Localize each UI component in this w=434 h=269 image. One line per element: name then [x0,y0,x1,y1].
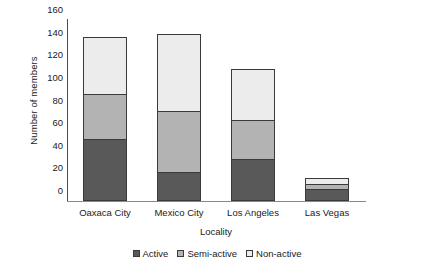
y-tick-label: 160 [39,4,63,15]
bar-segment-active[interactable] [83,139,127,201]
bar-segment-semi-active[interactable] [83,94,127,139]
bar-segment-non-active[interactable] [157,34,201,111]
stacked-bar-chart: Number of members 020406080100120140160 … [0,0,434,269]
bar-oaxaca-city[interactable]: Oaxaca City [83,37,127,201]
y-tick-label: 40 [39,139,63,150]
y-tick-label: 140 [39,26,63,37]
bar-segment-active[interactable] [157,172,201,201]
y-axis-line [67,19,68,202]
legend-swatch-icon [133,250,140,257]
bar-los-angeles[interactable]: Los Angeles [231,69,275,201]
bar-las-vegas[interactable]: Las Vegas [305,178,349,201]
bar-segment-non-active[interactable] [83,37,127,94]
legend-swatch-icon [177,250,184,257]
y-tick-label: 60 [39,117,63,128]
bar-mexico-city[interactable]: Mexico City [157,34,201,201]
chart-legend: ActiveSemi-activeNon-active [0,248,434,259]
y-axis-title: Number of members [28,21,39,181]
y-tick-label: 0 [39,185,63,196]
plot-area: 020406080100120140160 Oaxaca CityMexico … [68,20,364,201]
y-tick-label: 100 [39,71,63,82]
legend-swatch-icon [246,250,253,257]
bar-segment-non-active[interactable] [231,69,275,120]
bar-segment-active[interactable] [231,159,275,201]
legend-item-active[interactable]: Active [133,248,169,259]
legend-item-semi-active[interactable]: Semi-active [177,248,237,259]
y-tick-label: 20 [39,162,63,173]
legend-item-non-active[interactable]: Non-active [246,248,301,259]
x-tick-label: Oaxaca City [79,207,131,218]
y-tick-label: 80 [39,94,63,105]
x-tick-label: Los Angeles [227,207,279,218]
x-axis-title: Locality [68,226,364,237]
bar-segment-semi-active[interactable] [157,111,201,172]
y-tick-label: 120 [39,49,63,60]
x-tick-label: Las Vegas [305,207,349,218]
x-axis-line [67,201,366,202]
legend-label: Semi-active [187,248,237,259]
bar-segment-active[interactable] [305,189,349,201]
bar-segment-semi-active[interactable] [231,120,275,160]
legend-label: Non-active [256,248,301,259]
x-tick-label: Mexico City [154,207,203,218]
legend-label: Active [143,248,169,259]
